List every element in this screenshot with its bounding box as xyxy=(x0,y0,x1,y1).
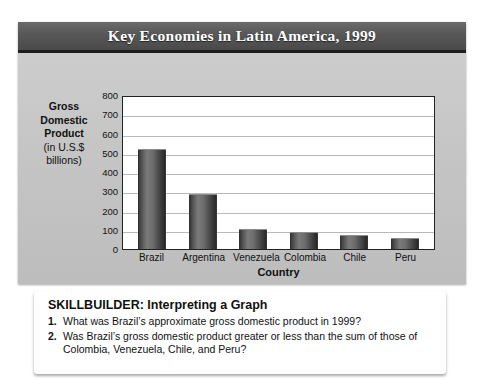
x-axis-tick: Brazil xyxy=(131,252,171,263)
y-axis-tick: 600 xyxy=(94,130,118,140)
bar-venezuela xyxy=(239,229,267,249)
skillbuilder-box: SKILLBUILDER: Interpreting a Graph 1.Wha… xyxy=(34,291,446,374)
bar-chile xyxy=(340,235,368,249)
bars-layer xyxy=(123,97,434,249)
question-number: 1. xyxy=(48,315,63,329)
bar-slot xyxy=(183,194,223,249)
bar-brazil xyxy=(138,149,166,249)
skillbuilder-question: 1.What was Brazil’s approximate gross do… xyxy=(48,315,434,329)
question-number: 2. xyxy=(48,330,63,344)
y-axis-title-line-4: (in U.S.$ xyxy=(26,141,102,155)
y-axis-tick: 0 xyxy=(94,245,118,255)
bar-slot xyxy=(132,149,172,249)
y-axis-title-line-2: Domestic xyxy=(26,114,102,128)
y-axis-tick: 300 xyxy=(94,187,118,197)
bar-slot xyxy=(334,235,374,249)
bar-colombia xyxy=(290,232,318,249)
x-axis-tick-labels: BrazilArgentinaVenezuelaColombiaChilePer… xyxy=(122,252,435,263)
y-axis-tick: 100 xyxy=(94,226,118,236)
figure-root: Key Economies in Latin America, 1999 Gro… xyxy=(0,0,484,392)
y-axis-tick: 800 xyxy=(94,91,118,101)
x-axis-tick: Venezuela xyxy=(233,252,273,263)
y-axis-tick: 400 xyxy=(94,168,118,178)
bar-slot xyxy=(284,232,324,249)
bar-slot xyxy=(233,229,273,249)
y-axis-tick: 500 xyxy=(94,149,118,159)
chart-region: Gross Domestic Product (in U.S.$ billion… xyxy=(18,56,466,284)
y-axis-title-line-1: Gross xyxy=(26,100,102,114)
question-text: Was Brazil’s gross domestic product grea… xyxy=(63,330,434,357)
skillbuilder-question: 2.Was Brazil’s gross domestic product gr… xyxy=(48,330,434,357)
x-axis-tick: Argentina xyxy=(182,252,222,263)
plot-area xyxy=(122,96,435,250)
skillbuilder-question-list: 1.What was Brazil’s approximate gross do… xyxy=(48,315,434,357)
y-axis-title-line-5: billions) xyxy=(26,154,102,168)
x-axis-tick: Peru xyxy=(386,252,426,263)
y-axis-tick: 700 xyxy=(94,110,118,120)
skillbuilder-heading: SKILLBUILDER: Interpreting a Graph xyxy=(48,298,434,312)
y-axis-title-line-3: Product xyxy=(26,127,102,141)
x-axis-tick: Colombia xyxy=(284,252,324,263)
x-axis-title: Country xyxy=(122,266,435,278)
x-axis-tick: Chile xyxy=(335,252,375,263)
bar-slot xyxy=(385,238,425,249)
y-axis-tick: 200 xyxy=(94,207,118,217)
bar-argentina xyxy=(189,194,217,249)
chart-title: Key Economies in Latin America, 1999 xyxy=(108,27,376,45)
chart-title-bar: Key Economies in Latin America, 1999 xyxy=(18,22,466,53)
y-axis-title: Gross Domestic Product (in U.S.$ billion… xyxy=(26,100,102,168)
bar-peru xyxy=(391,238,419,249)
y-axis-tick-labels: 8007006005004003002001000 xyxy=(94,96,118,250)
question-text: What was Brazil’s approximate gross dome… xyxy=(63,315,434,329)
figure-panel: Key Economies in Latin America, 1999 Gro… xyxy=(18,22,466,284)
